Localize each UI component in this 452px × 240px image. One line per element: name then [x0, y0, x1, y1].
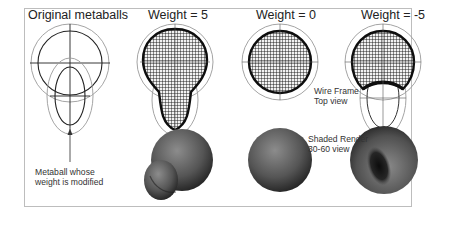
weight-0-shaded-render	[248, 128, 312, 192]
wireframe-annotation-line2: Top view	[314, 97, 359, 107]
metaball-annotation: Metaball whose weight is modified	[35, 168, 103, 187]
shaded-annotation-line2: 30-60 view	[308, 145, 368, 155]
weight-5-shaded-render	[144, 129, 213, 200]
metaball-annotation-line2: weight is modified	[35, 178, 103, 188]
weight-neg5-wireframe	[345, 24, 421, 136]
arrow-head-icon	[68, 129, 73, 136]
shaded-annotation: Shaded Render 30-60 view	[308, 135, 368, 154]
weight-5-wireframe	[137, 24, 213, 135]
weight-0-wireframe	[242, 24, 318, 100]
original-metaballs-diagram	[30, 24, 110, 162]
wireframe-annotation: Wire Frame Top view	[314, 87, 359, 106]
